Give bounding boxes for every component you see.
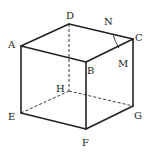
label-F: F bbox=[82, 137, 89, 148]
label-D: D bbox=[66, 10, 74, 21]
edge-DA bbox=[21, 24, 69, 46]
label-G: G bbox=[134, 110, 142, 121]
label-E: E bbox=[8, 111, 15, 122]
label-M: M bbox=[118, 58, 128, 69]
edge-CD bbox=[69, 24, 133, 39]
edge-AB bbox=[21, 46, 86, 62]
hidden-edge-HG bbox=[69, 91, 133, 106]
cube-diagram: A B C D E F G H N M bbox=[0, 0, 151, 159]
edge-FG bbox=[86, 106, 133, 129]
label-C: C bbox=[135, 32, 143, 43]
label-A: A bbox=[7, 39, 16, 50]
edge-EF bbox=[21, 113, 86, 129]
label-H: H bbox=[56, 83, 65, 94]
label-B: B bbox=[87, 65, 94, 76]
label-N: N bbox=[104, 16, 113, 27]
hidden-edge-EH bbox=[21, 91, 69, 113]
